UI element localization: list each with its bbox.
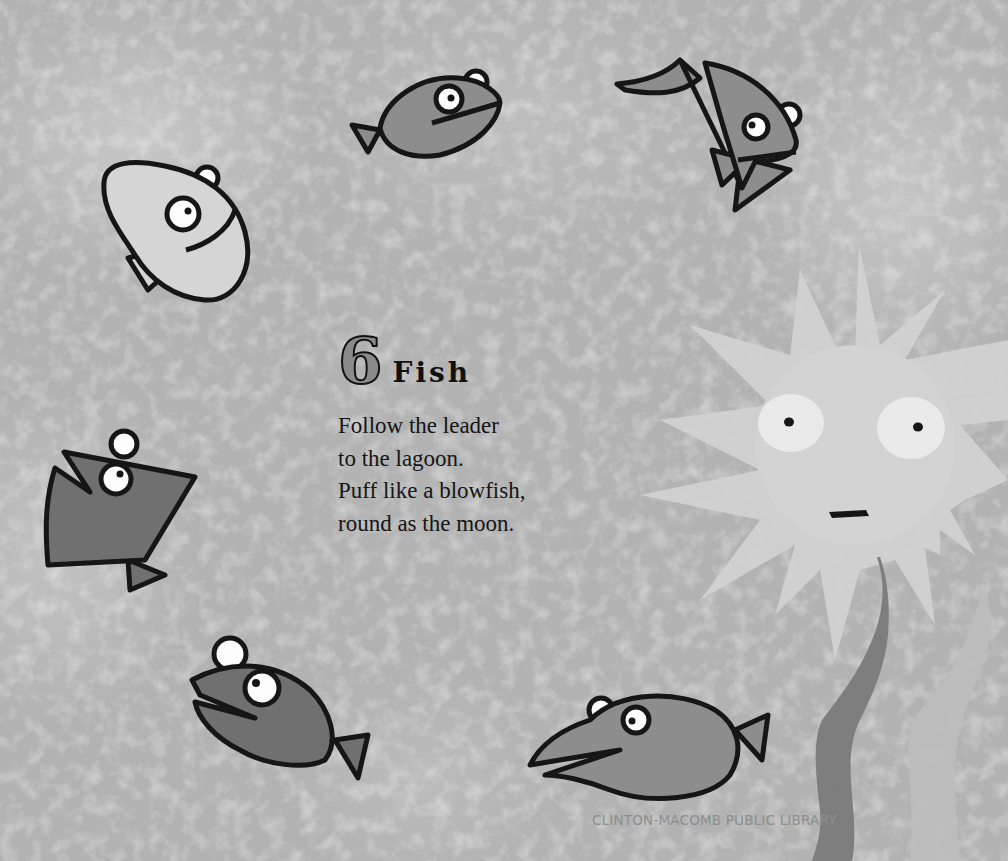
book-page: 6 Fish Follow the leader to the lagoon. … (0, 0, 1008, 861)
verse-line: Follow the leader (338, 410, 578, 443)
verse-line: to the lagoon. (338, 443, 578, 476)
verse-line: Puff like a blowfish, (338, 475, 578, 508)
rhyme-text-block: 6 Fish Follow the leader to the lagoon. … (338, 326, 578, 540)
library-watermark: CLINTON-MACOMB PUBLIC LIBRARY (592, 812, 837, 828)
title-row: 6 Fish (338, 326, 578, 392)
verse-line: round as the moon. (338, 508, 578, 541)
page-title: Fish (393, 356, 472, 389)
verse: Follow the leader to the lagoon. Puff li… (338, 410, 578, 540)
page-number: 6 (338, 330, 381, 392)
